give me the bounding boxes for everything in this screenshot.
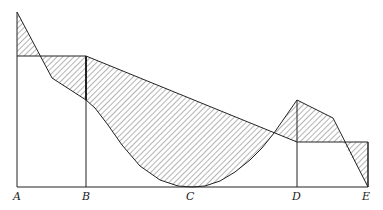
label-a: A <box>12 190 21 203</box>
hatched-region-ab <box>40 56 86 100</box>
label-d: D <box>291 190 301 203</box>
label-c: C <box>186 190 195 203</box>
shear-moment-diagram: A B C D E <box>0 0 383 210</box>
label-b: B <box>81 190 90 203</box>
label-e: E <box>361 190 370 203</box>
